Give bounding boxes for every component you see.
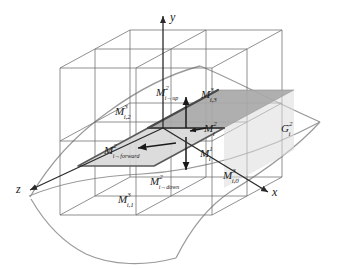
label-cell-i0-sup: 3 [232, 167, 236, 175]
label-cell-i1-sub: i,1 [127, 201, 134, 209]
label-cell-up-sub: i→up [165, 95, 179, 101]
label-cell-forward-sup: 2 [113, 142, 117, 150]
label-cell-level1-base: M [200, 147, 209, 159]
label-cell-level2: M2i [204, 119, 219, 138]
label-cell-up: M2i→up [156, 83, 182, 101]
label-surface-g: G2i [281, 119, 294, 138]
label-cell-down-base: M [150, 175, 159, 187]
label-surface-g-sub: i [288, 130, 290, 138]
label-cell-i0-sub: i,0 [232, 177, 239, 185]
label-cell-level1-sub: i [209, 155, 211, 163]
label-cell-i0: M3i,0 [223, 166, 243, 185]
label-cell-level1-sup: 1 [209, 145, 213, 153]
label-cell-i1-sup: 3 [127, 191, 131, 199]
label-cell-i2-sub: i,2 [124, 113, 131, 121]
label-surface-g-sup: 2 [289, 120, 293, 128]
label-cell-i3-sup: 3 [210, 86, 214, 94]
y-axis-label: y [170, 10, 175, 25]
z-axis-label: z [16, 182, 21, 197]
diagram-canvas: y x z M2i→up M3i,3 M3i,2 M2i M1i M2i→for… [0, 0, 338, 269]
label-cell-up-sup: 2 [165, 84, 169, 92]
label-cell-forward-base: M [104, 144, 113, 156]
label-cell-down-sup: 2 [159, 173, 163, 181]
label-cell-forward-sub: i→forward [113, 153, 140, 159]
x-axis-label: x [272, 185, 277, 200]
label-cell-level2-sub: i [213, 130, 215, 138]
label-cell-level2-sup: 2 [213, 120, 217, 128]
label-cell-i1: M3i,1 [118, 190, 138, 209]
label-cell-down-sub: i→down [159, 184, 180, 190]
label-cell-i1-base: M [118, 193, 127, 205]
label-cell-i2-sup: 3 [124, 103, 128, 111]
label-cell-i3: M3i,3 [201, 85, 221, 104]
label-cell-up-base: M [156, 86, 165, 98]
label-cell-forward: M2i→forward [104, 141, 143, 159]
label-cell-level2-base: M [204, 122, 213, 134]
label-cell-i2: M3i,2 [115, 102, 135, 121]
label-cell-i3-sub: i,3 [210, 96, 217, 104]
label-cell-i3-base: M [201, 88, 210, 100]
label-cell-level1: M1i [200, 144, 215, 163]
label-cell-i0-base: M [223, 169, 232, 181]
label-cell-down: M2i→down [150, 172, 183, 190]
label-cell-i2-base: M [115, 105, 124, 117]
